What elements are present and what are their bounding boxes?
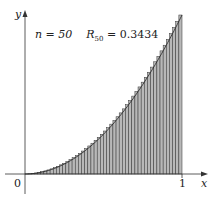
sum-symbol: R [86,28,94,41]
x-axis-label: x [201,178,207,189]
sum-subscript: 50 [95,35,104,43]
n-label: n = 50 [35,28,72,41]
y-axis-arrow-icon [23,10,28,17]
x-axis-arrow-icon [201,172,208,177]
riemann-sum-annotation: n = 50 R50 = 0.3434 [35,28,158,43]
x-tick-0: 0 [14,178,21,189]
sum-value: = 0.3434 [107,28,158,41]
y-axis-label: y [15,9,21,20]
x-tick-1: 1 [179,178,186,189]
